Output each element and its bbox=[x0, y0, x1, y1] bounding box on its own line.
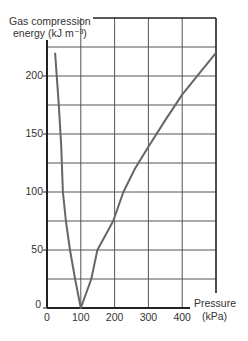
x-tick-label: 400 bbox=[167, 311, 197, 323]
x-tick-label: 200 bbox=[100, 311, 130, 323]
y-axis-label-line2: energy (kJ m⁻³) bbox=[13, 27, 87, 39]
x-axis-label-line2: (kPa) bbox=[202, 310, 227, 322]
chart-canvas bbox=[0, 0, 248, 341]
y-tick-label: 150 bbox=[17, 127, 43, 139]
y-tick-label: 100 bbox=[17, 185, 43, 197]
x-tick-label: 100 bbox=[66, 311, 96, 323]
x-tick-label: 0 bbox=[32, 311, 62, 323]
y-tick-label: 200 bbox=[17, 69, 43, 81]
data-line bbox=[55, 53, 216, 308]
y-axis-label-line1: Gas compression bbox=[9, 15, 91, 27]
x-axis-label-line1: Pressure bbox=[194, 297, 236, 309]
x-tick-label: 300 bbox=[133, 311, 163, 323]
y-tick-label: 0 bbox=[15, 298, 41, 310]
y-tick-label: 50 bbox=[17, 243, 43, 255]
